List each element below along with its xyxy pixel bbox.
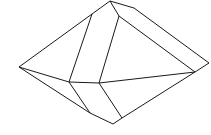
crystal-edge [69, 14, 92, 82]
crystal-edge [19, 14, 92, 67]
crystal-diagram [0, 0, 211, 135]
crystal-edge [113, 118, 122, 124]
crystal-edge [69, 82, 90, 113]
crystal-edge [19, 67, 90, 113]
crystal-edge [99, 16, 119, 83]
crystal-edge [92, 1, 110, 14]
crystal-edge [195, 63, 209, 72]
crystal-edge [69, 82, 99, 83]
crystal-edge [90, 113, 113, 124]
crystal-edge [19, 67, 69, 82]
crystal-edge [99, 83, 122, 118]
